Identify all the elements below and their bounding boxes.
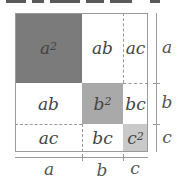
- arrow-tick: [153, 83, 160, 84]
- cell-label: bc: [92, 128, 112, 148]
- right-label-c: c: [157, 127, 177, 147]
- b-squared-cell: b2: [82, 83, 123, 124]
- bc-cell-bottom: bc: [82, 124, 123, 152]
- dashed-divider: [82, 124, 83, 152]
- cell-label: c: [127, 128, 137, 148]
- ac-cell-top: ac: [123, 13, 148, 83]
- cropped-text-band: [0, 0, 180, 3]
- dashed-divider: [123, 83, 148, 84]
- dashed-divider: [123, 13, 124, 83]
- bottom-label-c: c: [125, 158, 145, 178]
- ab-cell-left: ab: [15, 83, 82, 124]
- arrow-tick: [82, 154, 83, 161]
- cell-exponent: 2: [137, 130, 144, 143]
- right-label-b: b: [157, 92, 177, 112]
- right-label-a: a: [157, 37, 177, 57]
- arrow-tick: [153, 124, 160, 125]
- cell-label: a: [40, 38, 50, 58]
- ab-cell-top: ab: [82, 13, 123, 83]
- cell-exponent: 2: [50, 40, 57, 53]
- c-squared-cell: c2: [123, 124, 148, 152]
- arrow-tick: [123, 154, 124, 161]
- a-squared-cell: a2: [15, 13, 82, 83]
- cell-label: ac: [126, 38, 146, 58]
- cell-label: ac: [39, 128, 59, 148]
- bc-cell-right: bc: [123, 83, 148, 124]
- bottom-label-a: a: [39, 159, 59, 179]
- dashed-divider: [15, 124, 82, 125]
- cell-label: bc: [125, 94, 145, 114]
- cell-label: ab: [38, 94, 59, 114]
- cell-exponent: 2: [104, 95, 111, 108]
- cell-label: ab: [92, 38, 113, 58]
- cell-label: b: [94, 94, 105, 114]
- bottom-label-b: b: [92, 160, 112, 180]
- ac-cell-bottom: ac: [15, 124, 82, 152]
